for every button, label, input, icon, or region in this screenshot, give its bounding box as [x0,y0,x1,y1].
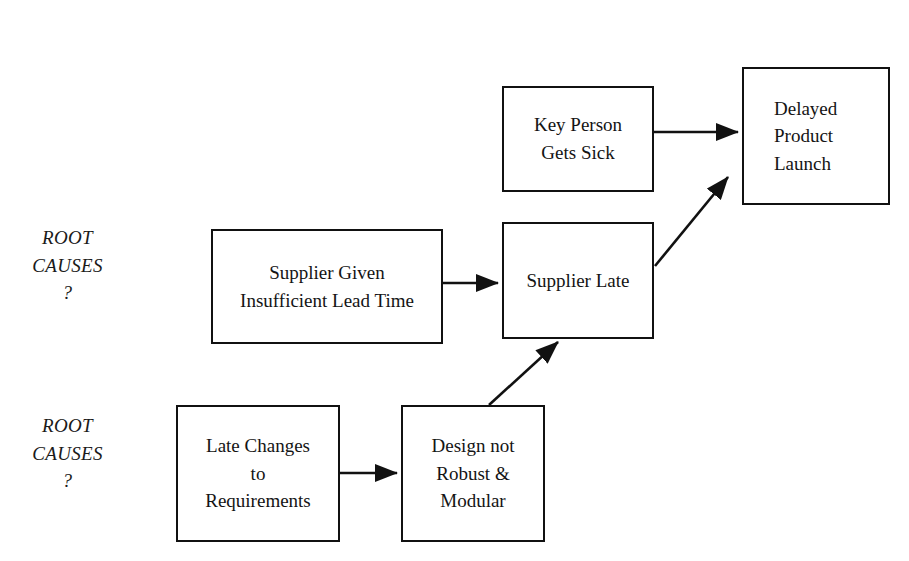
node-design-not-robust-and-modular[interactable]: Design not Robust & Modular [401,405,545,542]
node-delayed-product-launch[interactable]: Delayed Product Launch [742,67,890,205]
edge-supplier-late-to-delayed [655,177,728,266]
node-label-supplier-given-insufficient-lead-time: Supplier Given Insufficient Lead Time [234,259,420,314]
node-key-person-gets-sick[interactable]: Key Person Gets Sick [502,86,654,192]
annotation-root-causes-lower: ROOT CAUSES ? [25,412,110,495]
node-late-changes-to-requirements[interactable]: Late Changes to Requirements [176,405,340,542]
annotation-root-causes-upper: ROOT CAUSES ? [25,224,110,307]
node-label-delayed-product-launch: Delayed Product Launch [744,95,843,178]
edge-design-to-supplier-late [489,342,558,405]
node-label-key-person-gets-sick: Key Person Gets Sick [528,111,628,166]
node-label-supplier-late: Supplier Late [521,267,636,295]
node-label-late-changes-to-requirements: Late Changes to Requirements [199,432,317,515]
node-supplier-given-insufficient-lead-time[interactable]: Supplier Given Insufficient Lead Time [211,229,443,344]
node-supplier-late[interactable]: Supplier Late [502,222,654,339]
node-label-design-not-robust-and-modular: Design not Robust & Modular [426,432,521,515]
diagram-canvas: ROOT CAUSES ? ROOT CAUSES ? Key Person G… [0,0,909,561]
